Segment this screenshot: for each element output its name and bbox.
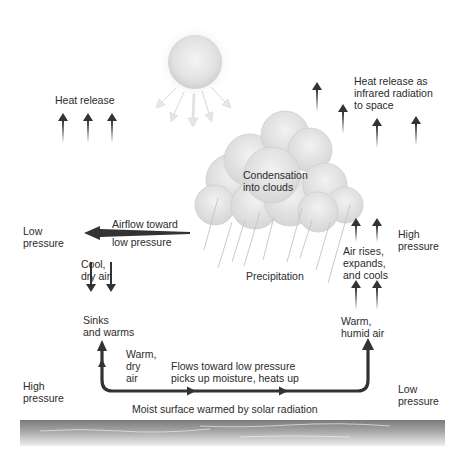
low-pressure-bottom-right-line1: Low — [398, 383, 417, 396]
heat-release-arrows-left — [58, 113, 117, 143]
airflow-label-line1: Airflow toward — [112, 218, 178, 231]
sinks-warms-label-line2: and warms — [83, 326, 134, 339]
surface-label: Moist surface warmed by solar radiation — [132, 403, 318, 416]
air-rises-label-line1: Air rises, — [343, 245, 384, 258]
air-rises-label-line2: expands, — [343, 257, 386, 270]
low-pressure-top-left-line2: pressure — [23, 237, 64, 250]
sun-icon — [157, 24, 233, 100]
high-pressure-top-right-line1: High — [398, 228, 420, 241]
condensation-label-line1: Condensation — [243, 169, 308, 182]
warm-dry-air-label-line1: Warm, — [126, 348, 157, 361]
heat-release-label: Heat release — [55, 94, 115, 107]
warm-dry-air-label-line3: air — [126, 372, 138, 385]
cool-dry-air-label-line2: dry air — [81, 270, 110, 283]
warm-humid-air-label-line2: humid air — [341, 327, 384, 340]
high-pressure-bottom-left-line2: pressure — [23, 392, 64, 405]
rising-arrows-lower — [351, 280, 382, 310]
flows-label-line2: picks up moisture, heats up — [171, 372, 299, 385]
high-pressure-bottom-left-line1: High — [23, 380, 45, 393]
sinks-warms-label-line1: Sinks — [83, 314, 109, 327]
warm-dry-air-label-line2: dry — [126, 360, 141, 373]
ocean-surface — [20, 420, 445, 446]
heat-release-ir-label-line1: Heat release as — [354, 75, 428, 88]
rising-arrows-upper — [351, 218, 382, 242]
air-rises-label-line3: and cools — [343, 269, 388, 282]
cool-dry-air-label-line1: Cool, — [81, 258, 106, 271]
condensation-label-line2: into clouds — [243, 181, 293, 194]
low-pressure-top-left-line1: Low — [23, 225, 42, 238]
precipitation-label: Precipitation — [246, 270, 304, 283]
low-pressure-bottom-right-line2: pressure — [398, 395, 439, 408]
heat-release-ir-label-line2: infrared radiation — [354, 87, 433, 100]
warm-humid-air-label-line1: Warm, — [341, 315, 372, 328]
heat-release-ir-label-line3: to space — [354, 99, 394, 112]
high-pressure-top-right-line2: pressure — [398, 240, 439, 253]
airflow-label-line2: low pressure — [112, 236, 172, 249]
flows-label-line1: Flows toward low pressure — [171, 360, 295, 373]
diagram-canvas — [0, 0, 464, 459]
